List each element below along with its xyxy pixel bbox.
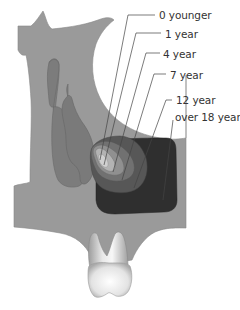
diagram-canvas [0, 0, 240, 310]
label-age-4-year: 4 year [163, 48, 196, 60]
sinus-development-diagram: 0 younger 1 year 4 year 7 year 12 year o… [0, 0, 240, 310]
maxilla-bone [14, 11, 186, 262]
label-age-12-year: 12 year [176, 94, 215, 106]
label-age-7-year: 7 year [170, 69, 203, 81]
tooth-crown [88, 262, 132, 297]
label-age-0-younger: 0 younger [159, 9, 212, 21]
label-age-1-year: 1 year [165, 28, 198, 40]
label-age-over-18-year: over 18 year [175, 111, 240, 123]
